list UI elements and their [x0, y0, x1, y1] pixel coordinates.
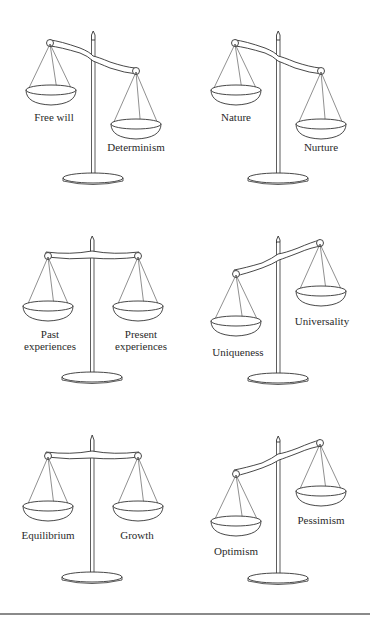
label-present-line2: experiences: [115, 340, 167, 352]
label-optimism: Optimism: [214, 545, 258, 557]
scale-nature-nurture: Nature Nurture: [211, 31, 346, 185]
scale-free-will-determinism: Free will Determinism: [26, 31, 165, 185]
label-nurture: Nurture: [304, 141, 338, 153]
label-nature: Nature: [221, 111, 251, 123]
scale-optimism-pessimism: Optimism Pessimism: [211, 436, 346, 585]
label-past-line2: experiences: [24, 340, 76, 352]
label-present-line1: Present: [125, 328, 157, 340]
balance-scales-figure: Free will Determinism Nature Nurture Pas…: [0, 0, 370, 619]
label-free-will: Free will: [34, 111, 73, 123]
label-uniqueness: Uniqueness: [212, 346, 263, 358]
label-equilibrium: Equilibrium: [21, 529, 75, 541]
label-universality: Universality: [295, 315, 350, 327]
bottom-divider: [0, 613, 370, 615]
scale-equilibrium-growth: Equilibrium Growth: [21, 435, 163, 584]
label-pessimism: Pessimism: [297, 514, 345, 526]
label-past-line1: Past: [41, 328, 59, 340]
scale-uniqueness-universality: Uniqueness Universality: [211, 236, 350, 385]
label-growth: Growth: [120, 529, 154, 541]
label-determinism: Determinism: [107, 141, 165, 153]
scale-past-present-experiences: Past experiences Present experiences: [23, 236, 167, 384]
